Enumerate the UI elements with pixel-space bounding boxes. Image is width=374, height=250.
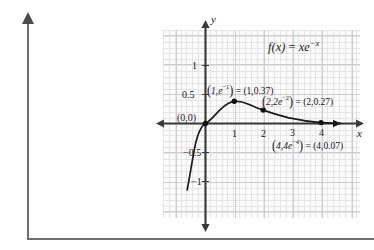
formula-expr-exponent: −x: [310, 38, 320, 48]
x-tick-label-3: 3: [290, 128, 295, 138]
y-axis-bottom-arrow-icon: [201, 224, 209, 232]
annotation-point-2-close-paren: ): [289, 94, 293, 108]
annotation-point-4-value: (4,0.07): [313, 141, 343, 151]
data-point-origin: [203, 121, 208, 126]
origin-label: (0,0): [177, 113, 196, 123]
data-point-1: [232, 99, 237, 104]
x-tick-label-1: 1: [232, 129, 237, 139]
y-tick-label-neg-0-5: −0.5: [183, 148, 201, 158]
x-tick-label-4: 4: [319, 128, 324, 138]
annotation-point-2-exponent: −2: [282, 94, 289, 101]
annotation-point-4-open-paren: (: [272, 138, 276, 152]
formula-arg: (x): [271, 40, 285, 54]
figure-page: x y 1 0.5 −0.5 −1 1 2 3 4 (0,0) f(x) = x…: [0, 0, 374, 250]
annotation-point-2-equals: =: [295, 97, 300, 107]
y-axis-top-arrow-icon: [201, 20, 209, 28]
formula-expr-base: xe: [299, 40, 310, 54]
formula-equals: =: [288, 40, 295, 54]
x-axis-left-arrow-icon: [156, 119, 164, 127]
function-formula: f(x) = xe−x: [268, 41, 319, 54]
y-tick-label-0-5: 0.5: [182, 90, 195, 100]
annotation-point-1-close-paren: ): [229, 83, 233, 97]
annotation-point-2: (2,2e−2) = (2,0.27): [262, 95, 333, 107]
annotation-point-1-equals: =: [236, 86, 241, 96]
y-tick-label-neg-1: −1: [191, 177, 202, 187]
annotation-point-4-equals: =: [305, 141, 310, 151]
annotation-point-4-base: 4e: [283, 141, 292, 151]
annotation-point-2-open-paren: (: [262, 94, 266, 108]
annotation-point-4-exponent: −4: [292, 138, 299, 145]
annotation-point-4-close-paren: ): [299, 138, 303, 152]
annotation-point-2-base: 2e: [273, 97, 282, 107]
annotation-point-1-open-paren: (: [207, 83, 211, 97]
x-tick-label-2: 2: [261, 129, 266, 139]
y-tick-label-1: 1: [192, 61, 197, 71]
annotation-point-2-value: (2,0.27): [303, 97, 333, 107]
data-point-4: [318, 120, 323, 125]
x-axis-label: x: [357, 128, 362, 139]
annotation-point-1-exponent: −1: [222, 83, 229, 90]
y-axis-label: y: [211, 14, 216, 25]
annotation-point-4: (4,4e−4) = (4,0.07): [272, 139, 343, 151]
